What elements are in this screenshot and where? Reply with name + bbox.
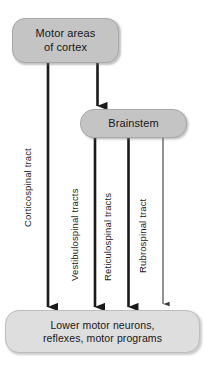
node-brainstem-label: Brainstem [104,117,162,130]
tract-label-vestibulospinal: Vestibulospinal tracts [69,188,80,281]
node-brainstem: Brainstem [80,109,187,138]
node-motor-cortex-label: Motor areas of cortex [32,27,100,54]
tract-label-rubrospinal: Rubrospinal tract [137,199,148,273]
node-lower-motor-neurons: Lower motor neurons, reflexes, motor pro… [5,310,200,353]
motor-pathway-diagram: Motor areas of cortex Brainstem Lower mo… [0,0,211,368]
tract-label-reticulospinal: Reticulospinal tracts [102,193,113,281]
node-lower-motor-neurons-label: Lower motor neurons, reflexes, motor pro… [39,319,166,345]
node-motor-cortex: Motor areas of cortex [12,18,119,63]
tract-label-corticospinal: Corticospinal tract [22,148,33,227]
